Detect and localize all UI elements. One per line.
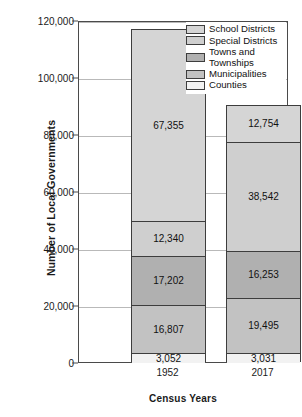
segment-value-label: 67,355 bbox=[153, 121, 184, 131]
legend-item[interactable]: School Districts bbox=[186, 24, 286, 35]
segment-value-label: 19,495 bbox=[248, 321, 279, 331]
bar-segment[interactable]: 3,031 bbox=[227, 354, 300, 363]
legend-label: Special Districts bbox=[209, 36, 277, 47]
legend-swatch bbox=[186, 36, 205, 45]
y-tick-label: 0 bbox=[4, 358, 74, 369]
segment-value-label: 17,202 bbox=[153, 276, 184, 286]
bar-segment[interactable]: 16,253 bbox=[227, 252, 300, 298]
segment-value-label: 38,542 bbox=[248, 192, 279, 202]
x-tick-label: 2017 bbox=[225, 367, 300, 378]
stacked-bar-chart: Number of Local Governments 020,00040,00… bbox=[0, 0, 302, 417]
bar-segment[interactable]: 19,495 bbox=[227, 299, 300, 355]
legend-label: School Districts bbox=[209, 24, 275, 35]
bar-2017[interactable]: 12,75438,54216,25319,4953,031 bbox=[226, 105, 301, 362]
y-axis-title: Number of Local Governments bbox=[45, 83, 57, 313]
legend-item[interactable]: Counties bbox=[186, 80, 286, 91]
legend-label: Counties bbox=[209, 80, 247, 91]
x-axis-title: Census Years bbox=[78, 393, 288, 404]
legend-item[interactable]: Municipalities bbox=[186, 69, 286, 80]
bar-segment[interactable]: 3,052 bbox=[132, 354, 205, 363]
y-tick-label: 80,000 bbox=[4, 130, 74, 141]
bar-segment[interactable]: 17,202 bbox=[132, 257, 205, 306]
segment-value-label: 3,031 bbox=[251, 354, 276, 364]
bar-segment[interactable]: 12,754 bbox=[227, 106, 300, 142]
segment-value-label: 16,807 bbox=[153, 325, 184, 335]
y-tick-label: 100,000 bbox=[4, 73, 74, 84]
legend-swatch bbox=[186, 70, 205, 79]
legend-swatch bbox=[186, 25, 205, 34]
segment-value-label: 3,052 bbox=[156, 354, 181, 364]
legend-item[interactable]: Towns and Townships bbox=[186, 47, 286, 69]
y-tick-label: 120,000 bbox=[4, 16, 74, 27]
y-tick-label: 60,000 bbox=[4, 187, 74, 198]
y-tick-label: 20,000 bbox=[4, 301, 74, 312]
legend-item[interactable]: Special Districts bbox=[186, 35, 286, 46]
segment-value-label: 12,754 bbox=[248, 119, 279, 129]
segment-value-label: 12,340 bbox=[153, 234, 184, 244]
x-tick-label: 1952 bbox=[130, 367, 205, 378]
legend-label: Towns and Townships bbox=[209, 47, 255, 68]
legend-swatch bbox=[186, 81, 205, 90]
legend: School DistrictsSpecial DistrictsTowns a… bbox=[186, 22, 286, 94]
legend-swatch bbox=[186, 53, 205, 62]
bar-segment[interactable]: 16,807 bbox=[132, 306, 205, 354]
segment-value-label: 16,253 bbox=[248, 270, 279, 280]
legend-label: Municipalities bbox=[209, 69, 267, 80]
y-tick-label: 40,000 bbox=[4, 244, 74, 255]
bar-segment[interactable]: 12,340 bbox=[132, 222, 205, 257]
bar-segment[interactable]: 38,542 bbox=[227, 143, 300, 253]
